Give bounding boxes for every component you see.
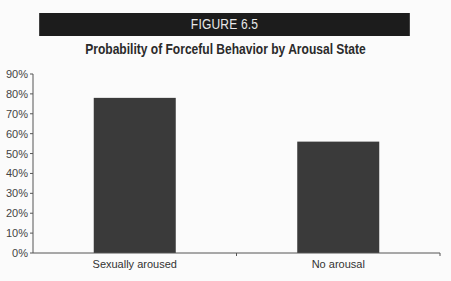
y-tick-label: 80% [6, 88, 28, 100]
y-tick-label: 60% [6, 128, 28, 140]
bar-no-arousal [297, 142, 379, 253]
y-tick-label: 10% [6, 227, 28, 239]
y-tick-label: 40% [6, 167, 28, 179]
y-tick-label: 30% [6, 187, 28, 199]
x-category-label: No arousal [312, 258, 365, 270]
bar-chart: 0%10%20%30%40%50%60%70%80%90% Sexually a… [0, 0, 451, 281]
y-axis: 0%10%20%30%40%50%60%70%80%90% [6, 68, 33, 259]
bars [94, 98, 380, 253]
y-tick-label: 50% [6, 148, 28, 160]
x-axis: Sexually arousedNo arousal [33, 253, 440, 270]
y-tick-label: 70% [6, 108, 28, 120]
bar-sexually-aroused [94, 98, 176, 253]
x-category-label: Sexually aroused [93, 258, 177, 270]
y-tick-label: 90% [6, 68, 28, 80]
y-tick-label: 0% [12, 247, 28, 259]
y-tick-label: 20% [6, 207, 28, 219]
